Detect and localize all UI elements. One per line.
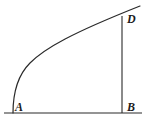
- vertex-label-a: A: [15, 101, 23, 113]
- vertex-label-b: B: [127, 101, 135, 113]
- curve-arc-ad: [13, 6, 140, 113]
- vertex-label-d: D: [127, 13, 136, 25]
- geometry-figure: A B D: [0, 0, 145, 123]
